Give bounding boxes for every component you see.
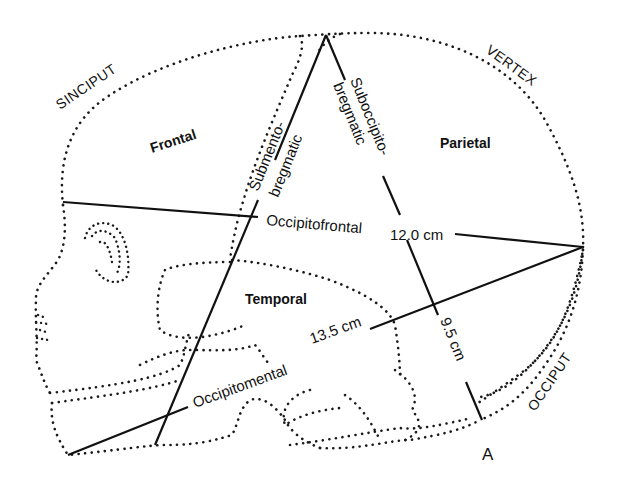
diameter-lines — [63, 35, 583, 455]
occipitofrontal-value: 12.0 cm — [390, 226, 443, 243]
ear-dots — [85, 223, 128, 282]
skull-outline — [36, 33, 583, 455]
panel-label: A — [482, 445, 494, 464]
occipitomental-label: Occipitomental — [190, 361, 289, 411]
occipitomental-value: 13.5 cm — [307, 313, 363, 347]
suboccipitobregmatic-line — [326, 35, 345, 80]
region-label-temporal: Temporal — [245, 291, 307, 307]
occipitomental-line — [68, 407, 188, 455]
region-label-frontal: Frontal — [148, 126, 198, 156]
fetal-skull-diameters-diagram: Frontal Parietal Temporal SINCIPUT VERTE… — [0, 0, 618, 489]
suboccipitobregmatic-value: 9.5 cm — [437, 315, 470, 363]
occipitofrontal-line — [63, 202, 258, 217]
zone-label-sinciput: SINCIPUT — [53, 60, 119, 112]
occipitofrontal-label: Occipitofrontal — [266, 211, 363, 236]
region-label-parietal: Parietal — [440, 135, 491, 151]
zone-label-vertex: VERTEX — [483, 41, 540, 89]
